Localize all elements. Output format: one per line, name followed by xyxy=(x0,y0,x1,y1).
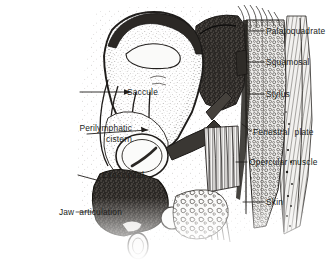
label-opercular-muscle: Opercular muscle xyxy=(249,157,318,167)
anatomical-figure: PalatoquadrateSquamosalStylusFenestral p… xyxy=(0,0,332,260)
label-stylus: Stylus xyxy=(266,89,290,99)
label-exoccipital: Exoccipital xyxy=(26,170,144,180)
label-perilymphatic-cistern: Perilymphatic cistern xyxy=(14,123,132,144)
label-skin: Skin xyxy=(266,197,283,207)
label-palatoquadrate: Palatoquadrate xyxy=(266,26,325,36)
label-jaw-articulation: Jaw articulation xyxy=(4,207,122,217)
label-squamosal: Squamosal xyxy=(266,57,310,67)
label-fenestral-plate: Fenestral plate xyxy=(253,127,314,137)
label-saccule: Saccule xyxy=(40,87,158,97)
